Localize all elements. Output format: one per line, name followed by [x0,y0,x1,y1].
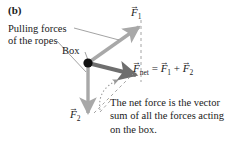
pulling-forces-line2: of the ropes [8,35,58,46]
eq-f2-subscript: 2 [190,68,194,77]
vector-accent-icon: → [130,1,139,11]
force-diagram-figure: (b) Pulling forces of the ropes Box →F1 … [0,0,232,149]
caption-leader-line [100,101,110,112]
vector-accent-icon: → [160,57,169,67]
pulling-forces-annotation: Pulling forces of the ropes [8,23,67,47]
vector-accent-icon: → [132,57,141,67]
panel-label: (b) [8,4,21,16]
pulling-forces-line1: Pulling forces [8,23,67,34]
label-f2-subscript: 2 [77,114,81,123]
vector-fnet [88,63,136,75]
eq-fnet-subscript: net [140,68,149,77]
caption-line3: on the box. [110,124,157,135]
vector-accent-icon: → [69,103,78,113]
figure-caption: The net force is the vector sum of all t… [110,96,224,136]
label-f1-subscript: 1 [138,12,142,21]
box-point-marker [83,58,92,67]
label-f1: →F1 [131,6,141,22]
vector-accent-icon: → [182,57,191,67]
box-annotation: Box [62,45,80,57]
caption-line1: The net force is the vector [110,97,220,108]
leader-line-pulling-forces [74,28,119,40]
equation-fnet: →Fnet = →F1 + →F2 [133,62,193,78]
label-f2: →F2 [70,108,80,124]
caption-line2: sum of all the forces acting [110,110,224,121]
